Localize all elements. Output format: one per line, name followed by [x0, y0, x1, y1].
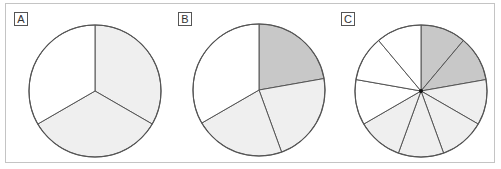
pie-center-dot [419, 89, 423, 93]
panel-label-c: C [341, 12, 355, 26]
pie-chart-c [355, 25, 487, 157]
panel-label-a: A [14, 12, 28, 26]
pie-chart-b [193, 24, 325, 156]
panel-label-b: B [178, 12, 192, 26]
pie-chart-a [29, 25, 161, 157]
pie-diagram-canvas [0, 0, 501, 169]
